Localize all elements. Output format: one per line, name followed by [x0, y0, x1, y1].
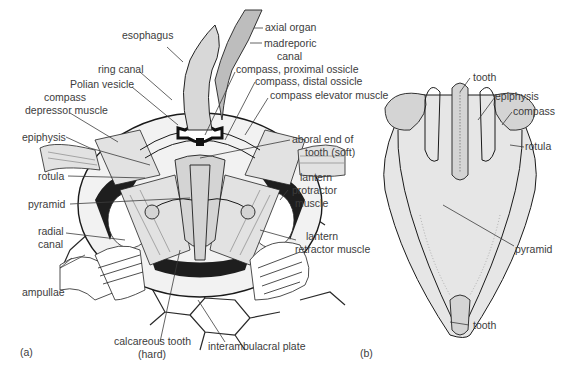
label-aboral-end-2: tooth (soft)	[305, 146, 355, 158]
label-aboral-end-1: aboral end of	[292, 133, 353, 145]
label-calcareous-tooth-1: calcareous tooth	[114, 335, 191, 347]
label-compass-depressor-1: compass	[44, 91, 86, 103]
panel-b-label: (b)	[360, 347, 373, 359]
panel-a-label: (a)	[20, 346, 33, 358]
label-compass-b: compass	[513, 105, 555, 117]
label-polian-vesicle: Polian vesicle	[70, 78, 134, 90]
label-rotula-a: rotula	[38, 170, 64, 182]
label-pyramid-a: pyramid	[28, 198, 66, 210]
label-tooth-bottom: tooth	[473, 319, 497, 331]
label-esophagus: esophagus	[122, 29, 173, 41]
label-ampullae: ampullae	[22, 286, 65, 298]
label-interambulacral-plate: interambulacral plate	[208, 340, 306, 352]
label-rotula-b: rotula	[525, 140, 551, 152]
label-lantern-protractor-3: muscle	[295, 197, 328, 209]
label-lantern-retractor-1: lantern	[306, 230, 338, 242]
label-axial-organ: axial organ	[265, 21, 317, 33]
label-lantern-retractor-2: retractor muscle	[295, 243, 370, 255]
label-calcareous-tooth-2: (hard)	[138, 348, 166, 360]
label-epiphysis-b: epiphysis	[495, 90, 539, 102]
label-compass-depressor-2: depressor muscle	[25, 104, 108, 116]
label-ring-canal: ring canal	[98, 63, 144, 75]
panel-b-illustration	[384, 83, 537, 338]
label-radial-canal-1: radial	[38, 225, 64, 237]
label-compass-elevator-muscle: compass elevator muscle	[270, 89, 389, 101]
label-epiphysis-a: epiphysis	[22, 131, 66, 143]
label-tooth-top: tooth	[473, 71, 497, 83]
label-compass-proximal-ossicle: compass, proximal ossicle	[236, 63, 359, 75]
ampullae-left	[60, 246, 145, 300]
label-lantern-protractor-1: lantern	[300, 171, 332, 183]
label-radial-canal-2: canal	[38, 238, 63, 250]
label-madreporic-canal-1: madreporic	[264, 37, 317, 49]
aristotles-lantern-diagram: esophagus axial organ madreporic canal r…	[0, 0, 570, 378]
label-compass-distal-ossicle: compass, distal ossicle	[255, 75, 363, 87]
label-pyramid-b: pyramid	[515, 243, 553, 255]
label-madreporic-canal-2: canal	[277, 50, 302, 62]
label-lantern-protractor-2: protractor	[292, 184, 337, 196]
